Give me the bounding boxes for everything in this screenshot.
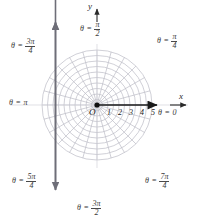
theta-symbol: θ: [12, 176, 16, 185]
fraction-denominator: 4: [25, 47, 35, 55]
angle-label-theta-3pi-4: θ = 3π 4: [11, 38, 35, 55]
radial-tick-2: 2: [115, 109, 125, 117]
angle-label-theta-pi-2: θ = π 2: [80, 21, 100, 38]
angle-value: 0: [172, 108, 176, 117]
theta-symbol: θ: [9, 98, 13, 107]
angle-label-theta-3pi-2: θ = 3π 2: [77, 200, 101, 217]
equals-sign: =: [18, 176, 25, 185]
fraction: 7π 4: [159, 173, 169, 190]
x-axis-label: x: [179, 92, 183, 101]
theta-symbol: θ: [158, 108, 162, 117]
equals-sign: =: [83, 203, 90, 212]
equals-sign: =: [86, 24, 93, 33]
radial-tick-4: 4: [137, 109, 147, 117]
theta-symbol: θ: [145, 176, 149, 185]
equals-sign: =: [151, 176, 158, 185]
fraction: π 4: [171, 33, 177, 50]
theta-symbol: θ: [77, 203, 81, 212]
radial-tick-5: 5: [148, 109, 158, 117]
polar-grid-figure: y x O 1 2 3 4 5 θ = 0 θ = π 4 θ = π: [0, 0, 198, 223]
angle-label-theta-0: θ = 0: [158, 109, 176, 117]
y-axis-label: y: [88, 2, 92, 11]
theta-symbol: θ: [11, 41, 15, 50]
fraction: 5π 4: [26, 173, 36, 190]
theta-symbol: θ: [157, 36, 161, 45]
angle-label-theta-pi: θ = π: [9, 99, 27, 107]
angle-label-theta-pi-4: θ = π 4: [157, 33, 177, 50]
fraction: 3π 2: [91, 200, 101, 217]
theta-symbol: θ: [80, 24, 84, 33]
equals-sign: =: [15, 98, 22, 107]
angle-value: π: [23, 98, 27, 107]
fraction: π 2: [94, 21, 100, 38]
equals-sign: =: [164, 108, 171, 117]
radial-tick-3: 3: [126, 109, 136, 117]
fraction-denominator: 4: [26, 182, 36, 190]
fraction-denominator: 4: [159, 182, 169, 190]
fraction-denominator: 2: [91, 209, 101, 217]
equals-sign: =: [17, 41, 24, 50]
radial-tick-1: 1: [104, 109, 114, 117]
equals-sign: =: [163, 36, 170, 45]
fraction-denominator: 2: [94, 30, 100, 38]
fraction: 3π 4: [25, 38, 35, 55]
angle-label-theta-5pi-4: θ = 5π 4: [12, 173, 36, 190]
origin-label: O: [89, 108, 96, 117]
angle-label-theta-7pi-4: θ = 7π 4: [145, 173, 169, 190]
fraction-denominator: 4: [171, 42, 177, 50]
